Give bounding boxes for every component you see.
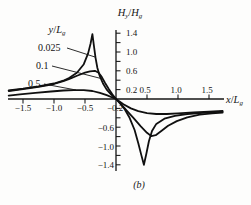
curve-label-01: 0.1 — [36, 60, 49, 71]
figure-caption: (b) — [133, 179, 145, 191]
y-tick-label-14: 1.4 — [126, 28, 138, 38]
y-tick-label-neg06: −0.6 — [98, 123, 115, 133]
y-tick-label-neg14: −1.4 — [98, 160, 115, 170]
x-tick-label-15: 1.5 — [201, 85, 213, 95]
x-tick-label-neg15: −1.5 — [15, 103, 32, 113]
x-tick-label-10: 1.0 — [170, 85, 182, 95]
curve-label-0025: 0.025 — [38, 42, 61, 53]
leader-line-0025 — [67, 48, 95, 57]
y-tick-label-neg10: −1.0 — [98, 142, 115, 152]
y-tick-label-02: 0.2 — [126, 85, 137, 95]
leader-line-05 — [44, 84, 76, 90]
x-tick-label-05: 0.5 — [139, 85, 151, 95]
y-tick-label-neg02: −0.2 — [107, 103, 123, 113]
y-tick-label-10: 1.0 — [126, 47, 138, 57]
field-component-figure: Hy/Hg x/Lg y/Lg 0.025 0.1 0.5 −1.5 −1.0 … — [0, 0, 251, 205]
x-tick-label-neg05: −0.5 — [77, 103, 94, 113]
curve-family-label: y/Lg — [48, 24, 66, 37]
y-tick-label-06: 0.6 — [126, 66, 138, 76]
x-tick-label-neg10: −1.0 — [46, 103, 63, 113]
curve-label-05: 0.5 — [28, 78, 41, 89]
leader-line-01 — [52, 66, 103, 79]
x-axis-title: x/Lg — [225, 94, 243, 107]
hy-field-plot: Hy/Hg x/Lg y/Lg 0.025 0.1 0.5 −1.5 −1.0 … — [0, 0, 251, 205]
y-axis-title: Hy/Hg — [117, 7, 143, 20]
